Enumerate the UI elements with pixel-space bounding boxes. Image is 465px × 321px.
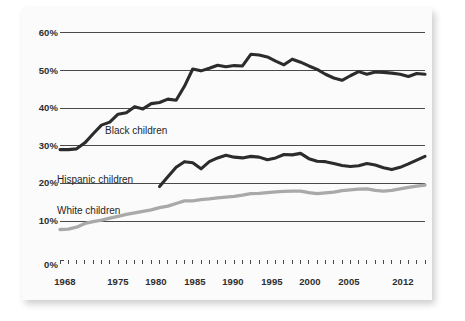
y-axis-label-40: 40%	[24, 102, 58, 113]
y-axis-label-50: 50%	[24, 65, 58, 76]
series-label-white-children: White children	[57, 205, 120, 216]
y-axis-label-10: 10%	[24, 215, 58, 226]
x-axis-label-1985: 1985	[175, 276, 215, 287]
y-axis-label-0: 0%	[24, 259, 58, 270]
x-axis-label-2012: 2012	[383, 276, 423, 287]
x-axis-label-2000: 2000	[290, 276, 330, 287]
x-axis-label-1975: 1975	[98, 276, 138, 287]
x-axis-label-1995: 1995	[252, 276, 292, 287]
series-line-hispanic-children	[160, 153, 425, 186]
chart-plot-area	[0, 0, 465, 321]
x-axis-label-1968: 1968	[45, 276, 85, 287]
y-axis-label-20: 20%	[24, 177, 58, 188]
y-axis-label-30: 30%	[24, 140, 58, 151]
series-label-hispanic-children: Hispanic children	[57, 174, 133, 185]
series-label-black-children: Black children	[105, 125, 167, 136]
x-axis-label-1990: 1990	[213, 276, 253, 287]
x-axis-origin-stub	[60, 260, 64, 264]
x-axis-tickmarks	[60, 260, 425, 264]
y-axis-label-60: 60%	[24, 27, 58, 38]
x-axis-label-2005: 2005	[329, 276, 369, 287]
x-axis-label-1980: 1980	[136, 276, 176, 287]
chart-figure: 60% 50% 40% 30% 20% 10% 0% 1968 1975 198…	[0, 0, 465, 321]
